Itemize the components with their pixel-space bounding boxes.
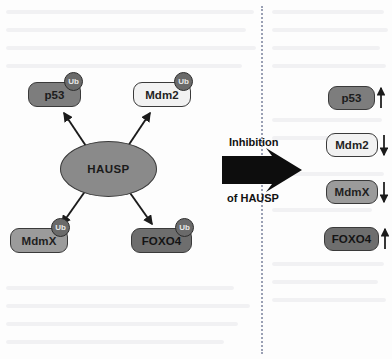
outcome-p53-label: p53 [341,92,361,104]
ub-badge-foxo4: Ub [175,218,194,237]
node-mdmx-label: MdmX [22,235,57,247]
arrow-hausp-to-foxo4 [128,190,152,224]
outcome-mdmx-label: MdmX [335,186,370,198]
ub-badge-p53-label: Ub [68,77,79,86]
ub-badge-mdm2-label: Ub [178,77,189,86]
ub-badge-mdm2: Ub [174,72,193,91]
ub-badge-mdmx: Ub [51,218,70,237]
ub-badge-mdmx-label: Ub [55,223,66,232]
outcome-mdm2: Mdm2 [326,133,378,157]
ub-badge-foxo4-label: Ub [179,223,190,232]
node-foxo4-label: FOXO4 [142,235,181,247]
ub-badge-p53: Ub [64,72,83,91]
hausp-hub: HAUSP [60,141,157,197]
arrow-hausp-to-p53 [64,113,86,146]
outcome-mdmx: MdmX [326,180,378,204]
inhibition-caption-top: Inhibition [229,136,278,148]
outcome-mdm2-label: Mdm2 [335,139,369,151]
panel-divider [261,6,263,354]
outcome-p53: p53 [328,86,375,110]
hausp-hub-label: HAUSP [87,163,129,175]
hausp-inhibition-figure: HAUSP p53 Ub Mdm2 Ub MdmX Ub FOXO4 Ub In… [0,0,392,359]
node-p53-label: p53 [44,89,64,101]
arrow-hausp-to-mdm2 [128,113,150,146]
inhibition-caption-bottom: of HAUSP [227,192,279,204]
node-mdm2-label: Mdm2 [145,89,179,101]
outcome-foxo4: FOXO4 [324,227,379,251]
outcome-foxo4-label: FOXO4 [332,233,371,245]
